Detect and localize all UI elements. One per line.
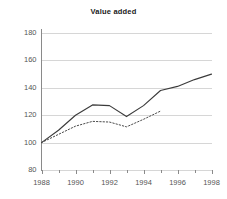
y-tick-label: 180 (13, 28, 37, 37)
y-tick-label: 160 (13, 55, 37, 64)
x-tick-label: 1998 (197, 178, 227, 187)
x-tick-label: 1988 (27, 178, 57, 187)
y-tick-label: 120 (13, 110, 37, 119)
y-tick-label: 100 (13, 138, 37, 147)
chart-container: Value added 80100120140160180 1988199019… (0, 0, 227, 199)
gridlines-group (42, 33, 212, 170)
data-series-group (42, 74, 212, 143)
series-line-dotted-series (42, 111, 161, 143)
x-tick-label: 1990 (61, 178, 91, 187)
y-tick-label: 80 (13, 165, 37, 174)
x-tick-label: 1996 (163, 178, 193, 187)
y-tick-label: 140 (13, 83, 37, 92)
x-tick-marks-group (43, 170, 213, 174)
x-tick-label: 1994 (129, 178, 159, 187)
x-tick-label: 1992 (95, 178, 125, 187)
series-line-solid-series (42, 74, 212, 143)
